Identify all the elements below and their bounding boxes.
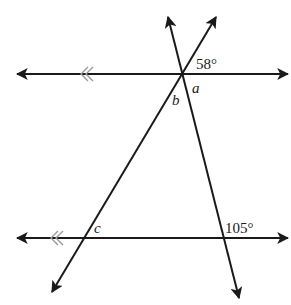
geometry-diagram: 58° a b c 105° [0, 0, 291, 305]
transversal-left [52, 17, 216, 292]
angle-b-label: b [172, 92, 180, 108]
angle-c-label: c [94, 220, 101, 236]
top-parallel-line [17, 67, 288, 81]
angle-105-label: 105° [225, 220, 254, 236]
angle-58-label: 58° [196, 56, 217, 72]
angle-a-label: a [192, 80, 200, 96]
